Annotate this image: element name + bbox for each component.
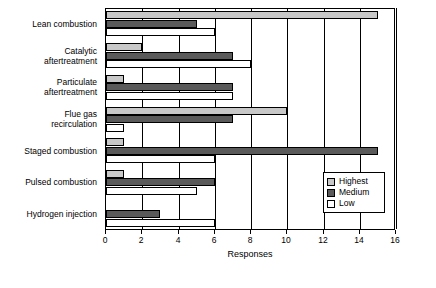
legend-swatch-low	[327, 200, 335, 208]
bar-low-3	[106, 124, 124, 132]
bar-chart: Lean combustion Catalytic aftertreatment…	[0, 0, 436, 288]
bar-highest-5	[106, 170, 124, 178]
x-tick-label-4: 4	[168, 235, 188, 245]
bar-highest-0	[106, 11, 378, 19]
x-tick-mark-10	[286, 230, 287, 234]
legend-swatch-highest	[327, 178, 335, 186]
legend-item-medium: Medium	[327, 187, 380, 198]
bar-highest-4	[106, 138, 124, 146]
bar-medium-6	[106, 210, 160, 218]
legend: Highest Medium Low	[323, 172, 385, 213]
bar-medium-5	[106, 178, 215, 186]
x-tick-label-14: 14	[349, 235, 369, 245]
gridline-8	[251, 8, 252, 229]
x-tick-label-6: 6	[204, 235, 224, 245]
legend-label-medium: Medium	[339, 188, 369, 197]
legend-item-low: Low	[327, 198, 380, 209]
x-tick-mark-4	[178, 230, 179, 234]
category-label-5: Pulsed combustion	[0, 177, 97, 187]
x-tick-mark-6	[214, 230, 215, 234]
bar-low-2	[106, 92, 233, 100]
bar-highest-2	[106, 75, 124, 83]
category-label-2: Particulate aftertreatment	[0, 77, 97, 97]
bar-low-1	[106, 60, 251, 68]
legend-label-highest: Highest	[339, 177, 368, 186]
x-tick-mark-14	[359, 230, 360, 234]
bar-highest-3	[106, 107, 287, 115]
x-tick-mark-2	[141, 230, 142, 234]
bar-medium-4	[106, 147, 378, 155]
bar-low-5	[106, 187, 197, 195]
category-label-1: Catalytic aftertreatment	[0, 46, 97, 66]
bar-low-0	[106, 28, 215, 36]
x-tick-mark-12	[323, 230, 324, 234]
x-tick-label-8: 8	[240, 235, 260, 245]
bar-low-4	[106, 155, 215, 163]
bar-medium-2	[106, 83, 233, 91]
bar-medium-3	[106, 115, 233, 123]
bar-medium-0	[106, 20, 197, 28]
x-tick-label-10: 10	[276, 235, 296, 245]
category-label-4: Staged combustion	[0, 146, 97, 156]
category-label-3: Flue gas recirculation	[0, 109, 97, 129]
legend-label-low: Low	[339, 199, 355, 208]
x-tick-label-16: 16	[385, 235, 405, 245]
x-tick-mark-8	[250, 230, 251, 234]
legend-swatch-medium	[327, 189, 335, 197]
bar-highest-1	[106, 43, 142, 51]
category-label-0: Lean combustion	[0, 19, 97, 29]
category-label-6: Hydrogen injection	[0, 209, 97, 219]
x-tick-label-2: 2	[131, 235, 151, 245]
x-axis-title: Responses	[105, 249, 395, 259]
x-tick-mark-16	[395, 230, 396, 234]
x-tick-mark-0	[105, 230, 106, 234]
bar-medium-1	[106, 52, 233, 60]
bar-low-6	[106, 219, 215, 227]
legend-item-highest: Highest	[327, 176, 380, 187]
gridline-16	[396, 8, 397, 229]
x-tick-label-12: 12	[313, 235, 333, 245]
x-tick-label-0: 0	[95, 235, 115, 245]
gridline-10	[287, 8, 288, 229]
